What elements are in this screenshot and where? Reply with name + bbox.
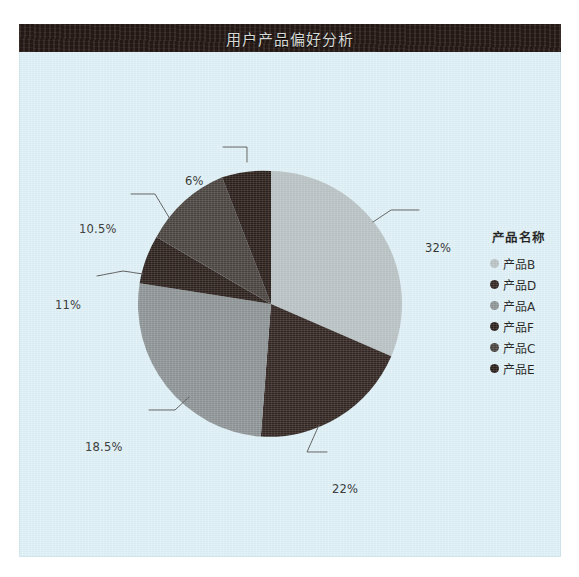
pct-18-5-label: 18.5% <box>85 440 123 454</box>
chart-title-bar: 用户产品偏好分析 <box>19 24 561 52</box>
chart-panel: 32% 22% 18.5% 11% 10.5% 6% 产品名称 产品B 产品D … <box>19 24 561 557</box>
pie-chart-svg <box>19 52 561 557</box>
legend-swatch-icon <box>490 259 499 268</box>
legend-item-label: 产品D <box>503 276 536 293</box>
legend-item-产品B[interactable]: 产品B <box>490 253 579 274</box>
pct-32-label: 32% <box>425 241 451 255</box>
pct-22-label: 22% <box>332 482 358 496</box>
legend-item-产品A[interactable]: 产品A <box>490 295 579 316</box>
pct-6-label: 6% <box>185 174 204 188</box>
legend-title: 产品名称 <box>492 227 579 246</box>
legend-item-产品D[interactable]: 产品D <box>490 274 579 295</box>
legend-item-label: 产品F <box>503 318 534 335</box>
leader-line-32 <box>373 210 419 222</box>
scanned-chart-page: 32% 22% 18.5% 11% 10.5% 6% 产品名称 产品B 产品D … <box>0 0 579 577</box>
legend-item-产品F[interactable]: 产品F <box>490 316 579 337</box>
legend-item-label: 产品E <box>503 360 535 377</box>
pct-11-label: 11% <box>55 298 81 312</box>
legend-swatch-icon <box>490 322 499 331</box>
legend-item-label: 产品C <box>503 339 535 356</box>
legend-swatch-icon <box>490 364 499 373</box>
legend-item-label: 产品A <box>503 297 535 314</box>
pie-slice-产品A[interactable] <box>138 283 271 436</box>
legend-swatch-icon <box>490 301 499 310</box>
leader-line-11 <box>97 271 143 276</box>
legend-item-产品C[interactable]: 产品C <box>490 337 579 358</box>
legend-item-label: 产品B <box>503 255 535 272</box>
leader-line-6 <box>223 147 247 162</box>
legend-swatch-icon <box>490 280 499 289</box>
page-title: 用户产品偏好分析 <box>226 28 354 49</box>
legend-item-产品E[interactable]: 产品E <box>490 358 579 379</box>
pct-10-5-label: 10.5% <box>79 222 117 236</box>
plot-area: 32% 22% 18.5% 11% 10.5% 6% <box>19 52 561 557</box>
legend: 产品名称 产品B 产品D 产品A 产品F 产品C <box>490 227 579 379</box>
legend-swatch-icon <box>490 343 499 352</box>
leader-line-10-5 <box>131 194 170 219</box>
